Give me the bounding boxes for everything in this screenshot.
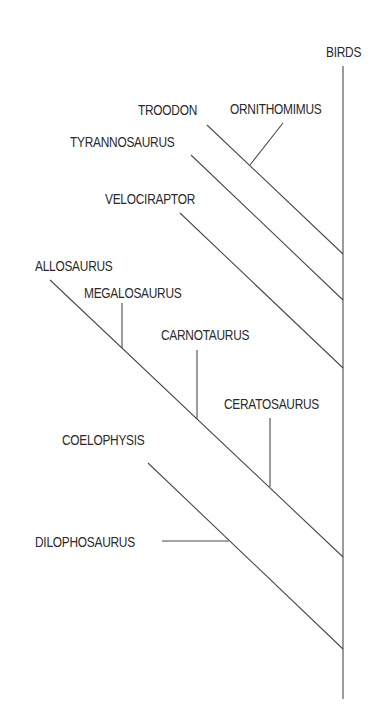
ornithomimus-branch-line <box>250 123 283 165</box>
label-dilophosaurus: DILOPHOSAURUS <box>35 534 135 550</box>
label-allosaurus: ALLOSAURUS <box>35 258 113 274</box>
label-carnotaurus: CARNOTAURUS <box>161 327 249 343</box>
label-troodon: TROODON <box>138 102 197 118</box>
cladogram: BIRDS TROODON ORNITHOMIMUS TYRANNOSAURUS… <box>0 0 387 721</box>
velociraptor-branch-line <box>180 213 343 368</box>
label-birds: BIRDS <box>326 44 361 60</box>
label-velociraptor: VELOCIRAPTOR <box>105 191 195 207</box>
coelophysis-branch-line <box>148 463 343 649</box>
tyrannosaurus-branch-line <box>191 155 343 300</box>
label-ornithomimus: ORNITHOMIMUS <box>230 101 322 117</box>
label-ceratosaurus: CERATOSAURUS <box>224 396 319 412</box>
label-coelophysis: COELOPHYSIS <box>62 432 145 448</box>
label-tyrannosaurus: TYRANNOSAURUS <box>70 134 174 150</box>
label-megalosaurus: MEGALOSAURUS <box>84 285 181 301</box>
